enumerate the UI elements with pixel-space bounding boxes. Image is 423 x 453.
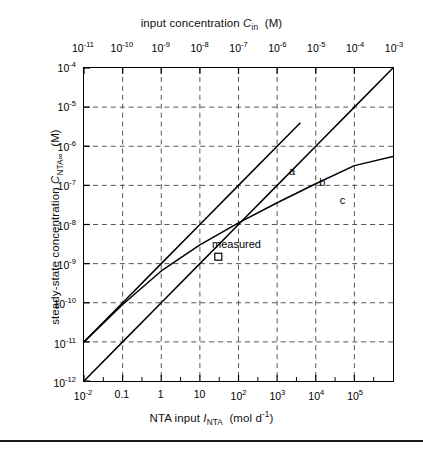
- x-tick-label: 105: [347, 388, 363, 402]
- bottom-divider-rule: [0, 440, 423, 442]
- y-tick-label: 10‑5: [58, 100, 76, 114]
- data-curves: [84, 68, 393, 381]
- secondary-x-tick-label: 10‑8: [190, 40, 208, 54]
- y-tick-label: 10‑9: [58, 257, 76, 271]
- y-tick-label: 10‑4: [58, 60, 76, 74]
- plot-area: [83, 67, 394, 382]
- y-tick-label: 10‑10: [53, 297, 76, 311]
- left-axis-title-sub: NTA∞: [56, 153, 65, 175]
- secondary-x-tick-label: 10‑3: [385, 40, 403, 54]
- y-tick-label: 10‑12: [53, 375, 76, 389]
- secondary-x-tick-label: 10‑10: [111, 40, 134, 54]
- y-tick-label: 10‑8: [58, 218, 76, 232]
- top-axis-title-units: (M): [265, 17, 283, 29]
- y-tick-label: 10‑11: [54, 336, 76, 350]
- top-axis-title-sub: in: [252, 23, 259, 32]
- bottom-axis-title: NTA input INTA (mol d-1): [0, 410, 423, 427]
- secondary-x-tick-label: 10‑4: [346, 40, 364, 54]
- bottom-axis-title-units: (mol d: [229, 412, 262, 424]
- secondary-x-tick-label: 10‑5: [307, 40, 325, 54]
- top-axis-title-symbol: C: [243, 17, 251, 29]
- secondary-x-tick-label: 10‑9: [152, 40, 170, 54]
- x-tick-label: 0.1: [115, 388, 130, 400]
- secondary-x-tick-label: 10‑7: [229, 40, 247, 54]
- curve-label-c: c: [340, 194, 346, 206]
- top-axis-title: input concentration Cin (M): [0, 17, 423, 32]
- curve-a: [84, 123, 300, 342]
- x-tick-label: 102: [231, 388, 247, 402]
- secondary-x-tick-label: 10‑11: [72, 40, 94, 54]
- y-tick-label: 10‑7: [58, 178, 76, 192]
- bottom-axis-title-sub: NTA: [207, 418, 223, 427]
- bottom-axis-title-units-end: ): [270, 412, 274, 424]
- x-tick-label: 10: [194, 388, 206, 400]
- top-axis-title-prefix: input concentration: [141, 17, 243, 29]
- bottom-axis-title-units-sup: -1: [262, 410, 270, 419]
- x-tick-label: 10‑2: [74, 388, 92, 402]
- x-tick-label: 103: [269, 388, 285, 402]
- x-tick-label: 1: [158, 388, 164, 400]
- figure-container: input concentration Cin (M) steady-state…: [0, 0, 423, 453]
- x-tick-label: 104: [308, 388, 324, 402]
- y-tick-label: 10‑6: [58, 139, 76, 153]
- curve-b: [84, 68, 393, 381]
- curve-label-b: b: [319, 176, 325, 188]
- measured-annotation-label: measured: [212, 238, 261, 250]
- bottom-axis-title-prefix: NTA input: [149, 412, 203, 424]
- measured-marker: [215, 253, 222, 260]
- secondary-x-tick-label: 10‑6: [268, 40, 286, 54]
- curve-label-a: a: [289, 165, 295, 177]
